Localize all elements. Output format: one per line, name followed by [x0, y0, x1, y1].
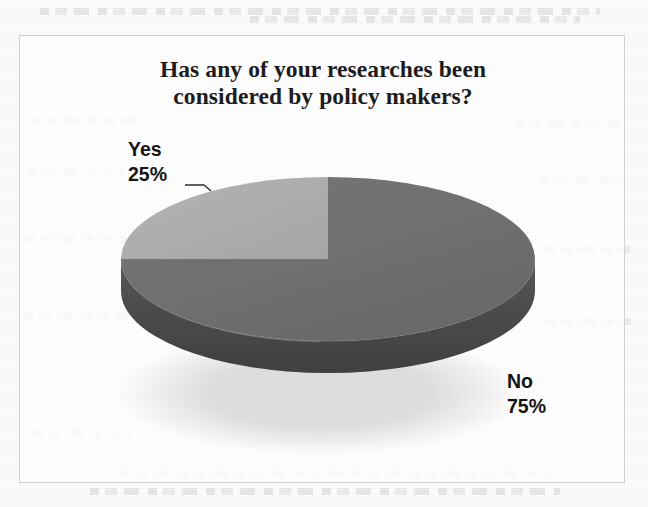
scan-artifact	[40, 8, 600, 15]
pie-body	[121, 177, 535, 373]
pie-label-no-percent: 75%	[507, 394, 546, 419]
scan-artifact	[250, 16, 580, 23]
pie-chart: Yes 25% No 75%	[20, 36, 626, 484]
pie-label-yes: Yes 25%	[128, 137, 167, 187]
pie-label-no: No 75%	[507, 369, 546, 419]
pie-slice-yes	[121, 177, 328, 259]
scanned-page: Has any of your researches been consider…	[0, 0, 648, 507]
pie-label-yes-name: Yes	[128, 137, 167, 162]
scan-artifact	[90, 488, 560, 495]
pie-label-no-name: No	[507, 369, 546, 394]
pie-label-yes-percent: 25%	[128, 162, 167, 187]
chart-frame: Has any of your researches been consider…	[19, 35, 625, 483]
